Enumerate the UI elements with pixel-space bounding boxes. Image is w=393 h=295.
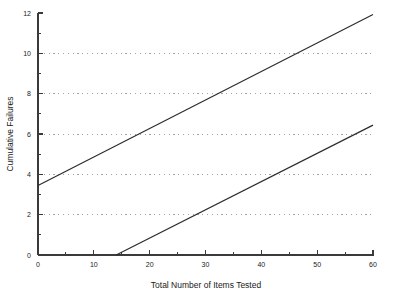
y-tick-label-10: 10 bbox=[23, 50, 31, 57]
y-tick-label-0: 0 bbox=[27, 252, 31, 259]
gridlines bbox=[39, 53, 374, 214]
chart-container: 0246810120102030405060 Total Number of I… bbox=[0, 0, 393, 295]
y-tick-label-12: 12 bbox=[23, 10, 31, 17]
y-tick-label-2: 2 bbox=[27, 211, 31, 218]
series-upper-bound-line bbox=[38, 14, 373, 185]
series-lower-bound-line bbox=[116, 125, 373, 255]
y-tick-label-8: 8 bbox=[27, 90, 31, 97]
y-tick-label-4: 4 bbox=[27, 171, 31, 178]
x-tick-label-50: 50 bbox=[313, 261, 321, 268]
tick-labels: 0246810120102030405060 bbox=[23, 10, 377, 268]
x-axis-title: Total Number of Items Tested bbox=[151, 280, 262, 290]
x-tick-label-0: 0 bbox=[36, 261, 40, 268]
y-axis-title: Cumulative Failures bbox=[5, 96, 15, 171]
x-tick-label-10: 10 bbox=[90, 261, 98, 268]
data-series bbox=[38, 14, 373, 255]
x-tick-label-30: 30 bbox=[202, 261, 210, 268]
x-tick-label-60: 60 bbox=[369, 261, 377, 268]
x-tick-label-40: 40 bbox=[257, 261, 265, 268]
x-tick-label-20: 20 bbox=[146, 261, 154, 268]
y-tick-label-6: 6 bbox=[27, 131, 31, 138]
chart-canvas: 0246810120102030405060 Total Number of I… bbox=[0, 0, 393, 295]
